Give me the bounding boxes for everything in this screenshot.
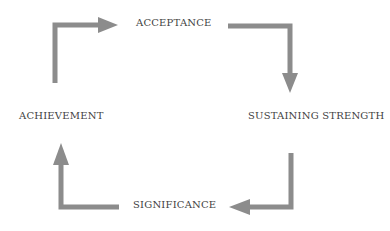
node-acceptance: ACCEPTANCE	[136, 17, 212, 29]
node-sustaining-strength: SUSTAINING STRENGTH	[248, 110, 384, 122]
arrowhead-right-icon	[98, 17, 118, 33]
node-significance: SIGNIFICANCE	[133, 199, 216, 211]
arrow-significance-to-achievement-icon	[61, 164, 119, 207]
arrow-sustaining-to-significance-icon	[249, 153, 291, 207]
node-achievement: ACHIEVEMENT	[19, 110, 104, 122]
cycle-diagram: ACCEPTANCE SUSTAINING STRENGTH SIGNIFICA…	[0, 0, 390, 231]
arrowhead-down-icon	[282, 73, 298, 93]
arrowhead-up-icon	[53, 143, 69, 165]
arrowhead-left-icon	[229, 199, 250, 215]
arrow-acceptance-to-sustaining-icon	[228, 26, 290, 74]
arrow-achievement-to-acceptance-icon	[55, 25, 99, 83]
